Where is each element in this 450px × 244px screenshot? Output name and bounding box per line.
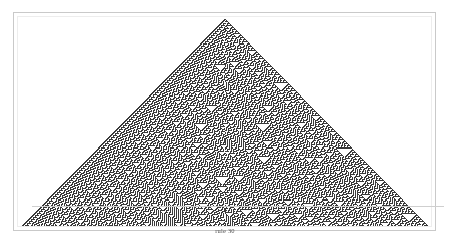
figure-frame xyxy=(13,12,436,231)
rule30-automaton-canvas xyxy=(21,18,429,226)
rule30-automaton-plot xyxy=(21,18,429,226)
figure-caption: rule 30 xyxy=(0,226,450,235)
figure-root: rule 30 xyxy=(0,0,450,244)
plot-baseline xyxy=(32,206,444,207)
